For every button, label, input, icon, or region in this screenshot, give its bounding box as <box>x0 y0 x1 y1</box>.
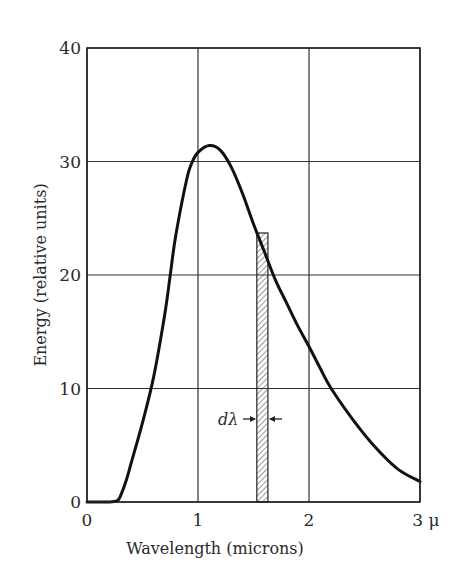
d-lambda-annotation: dλ <box>218 410 282 429</box>
x-tick-label: 1 <box>193 510 204 530</box>
energy-curve <box>87 146 420 503</box>
x-tick-label: 3 μ <box>412 510 439 530</box>
d-lambda-label: dλ <box>218 410 238 429</box>
d-lambda-band <box>257 233 268 502</box>
grid-lines <box>87 48 420 502</box>
x-tick-label: 0 <box>82 510 93 530</box>
y-axis-label: Energy (relative units) <box>31 183 50 366</box>
y-axis-ticks: 010203040 <box>59 38 81 512</box>
x-axis-ticks: 0123 μ <box>82 510 440 530</box>
y-tick-label: 30 <box>59 152 81 172</box>
left-arrow-icon <box>243 416 256 422</box>
hatched-band-rect <box>257 233 268 502</box>
y-tick-label: 20 <box>59 265 81 285</box>
right-arrow-icon <box>269 416 282 422</box>
x-axis-label: Wavelength (microns) <box>126 539 304 558</box>
y-tick-label: 10 <box>59 379 81 399</box>
x-tick-label: 2 <box>304 510 315 530</box>
energy-spectrum-chart: 010203040 0123 μ Wavelength (microns) En… <box>0 0 457 577</box>
y-tick-label: 40 <box>59 38 81 58</box>
y-tick-label: 0 <box>70 492 81 512</box>
